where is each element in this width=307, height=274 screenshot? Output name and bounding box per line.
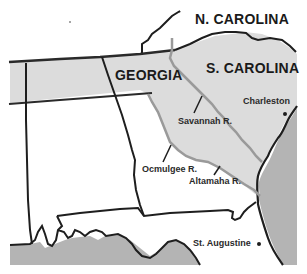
florida-boundary <box>57 202 256 220</box>
southeast-colonial-map <box>0 0 307 274</box>
city-label-st-augustine: St. Augustine <box>193 239 251 248</box>
river-label-altamaha: Altamaha R. <box>189 177 241 186</box>
ocmulgee-pointer <box>163 145 171 162</box>
scan-speck <box>69 21 71 23</box>
nc-northern-notch <box>142 11 180 55</box>
state-label-ga: GEORGIA <box>115 68 183 82</box>
gulf-of-mexico <box>10 235 200 265</box>
river-label-savannah: Savannah R. <box>178 117 232 126</box>
river-label-ocmulgee: Ocmulgee R. <box>142 165 197 174</box>
st-augustine-dot <box>257 242 261 246</box>
city-label-charleston: Charleston <box>243 97 290 106</box>
state-label-nc: N. CAROLINA <box>195 12 289 26</box>
charleston-dot <box>283 112 287 116</box>
state-label-sc: S. CAROLINA <box>206 61 299 75</box>
